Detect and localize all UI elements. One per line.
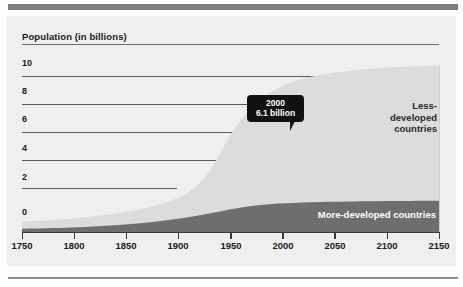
callout-pointer (290, 119, 296, 131)
x-tick-label-1900: 1900 (158, 240, 198, 251)
x-tick-label-2150: 2150 (419, 240, 459, 251)
x-tick-label-1750: 1750 (2, 240, 42, 251)
series-label-less-developed-line1: Less- (355, 100, 437, 112)
x-tick-label-2100: 2100 (367, 240, 407, 251)
series-label-less-developed-line3: countries (355, 123, 437, 135)
data-point-callout: 2000 6.1 billion (247, 95, 304, 122)
plot-area (22, 50, 440, 232)
callout-year: 2000 (247, 98, 304, 108)
chart-figure: Population (in billions) 10 8 6 4 2 0 (0, 0, 463, 287)
x-tick-label-2050: 2050 (315, 240, 355, 251)
callout-value: 6.1 billion (247, 108, 304, 118)
x-axis-ticks (23, 233, 440, 239)
top-accent-rule (8, 4, 458, 10)
x-tick-label-1950: 1950 (211, 240, 251, 251)
title-underline-rule (22, 44, 439, 45)
x-tick-label-2000: 2000 (263, 240, 303, 251)
x-tick-label-1850: 1850 (106, 240, 146, 251)
x-tick-label-1800: 1800 (54, 240, 94, 251)
series-label-less-developed: Less- developed countries (355, 100, 437, 135)
bottom-rule (8, 277, 458, 279)
series-label-more-developed: More-developed countries (300, 209, 436, 220)
series-label-less-developed-line2: developed (355, 112, 437, 124)
chart-title: Population (in billions) (22, 31, 127, 42)
